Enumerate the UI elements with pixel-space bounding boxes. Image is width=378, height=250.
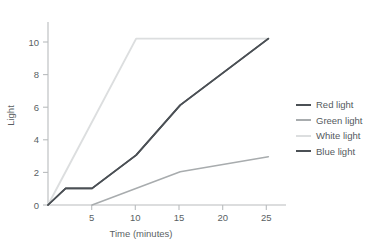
series-layer — [48, 39, 268, 205]
x-tick-marks — [92, 205, 267, 210]
x-tick-label: 20 — [217, 212, 228, 223]
legend-swatch-icon — [296, 119, 311, 121]
line-chart: 0 2 4 6 8 10 5 10 15 20 25 Time (minutes… — [0, 0, 378, 250]
y-tick-label: 6 — [34, 102, 39, 113]
y-tick-labels: 0 2 4 6 8 10 — [28, 37, 39, 211]
legend-swatch-icon — [296, 135, 311, 137]
legend-swatch-icon — [296, 104, 311, 106]
x-tick-label: 5 — [89, 212, 94, 223]
legend-item-label: Red light — [316, 99, 354, 110]
x-tick-label: 10 — [130, 212, 141, 223]
y-tick-label: 8 — [34, 69, 39, 80]
y-tick-label: 4 — [34, 134, 39, 145]
legend-item-red-light[interactable]: Red light — [296, 99, 362, 110]
legend-item-white-light[interactable]: White light — [296, 130, 362, 141]
legend-swatch-icon — [296, 150, 311, 152]
y-tick-label: 10 — [28, 37, 39, 48]
y-tick-label: 2 — [34, 167, 39, 178]
x-tick-label: 15 — [174, 212, 185, 223]
x-tick-label: 25 — [261, 212, 272, 223]
y-axis-label: Light — [5, 93, 16, 139]
y-tick-label: 0 — [34, 200, 39, 211]
x-axis-label: Time (minutes) — [0, 228, 282, 239]
legend-item-label: Blue light — [316, 146, 355, 157]
legend-item-label: White light — [316, 130, 360, 141]
x-tick-labels: 5 10 15 20 25 — [89, 212, 272, 223]
legend-item-green-light[interactable]: Green light — [296, 115, 362, 126]
chart-legend: Red light Green light White light Blue l… — [296, 99, 362, 157]
y-tick-marks — [43, 42, 48, 205]
legend-item-blue-light[interactable]: Blue light — [296, 146, 362, 157]
legend-item-label: Green light — [316, 115, 362, 126]
series-line-green-light — [92, 157, 268, 205]
